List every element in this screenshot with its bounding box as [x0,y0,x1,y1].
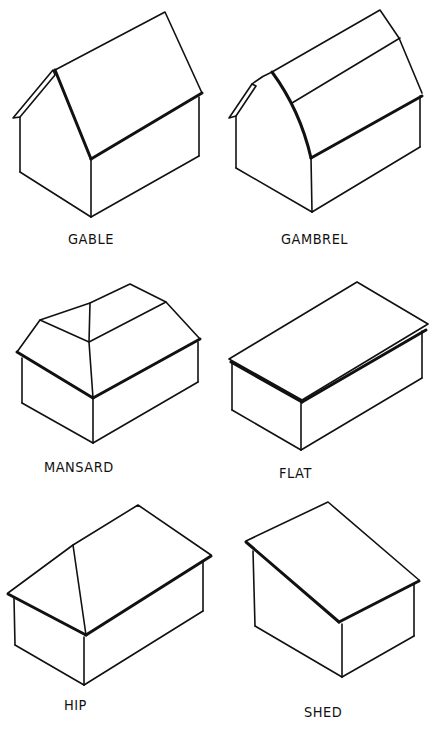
gambrel-roof-drawing [229,10,422,212]
gambrel-label: GAMBREL [281,231,348,248]
mansard-roof-drawing [17,284,200,443]
flat-roof-drawing [229,282,428,450]
mansard-label: MANSARD [44,459,114,476]
flat-label: FLAT [279,465,312,482]
hip-label: HIP [64,697,87,714]
roof-types-diagram [0,0,439,733]
shed-roof-drawing [246,502,419,677]
shed-label: SHED [304,704,342,721]
gable-label: GABLE [68,231,114,248]
hip-roof-drawing [8,505,211,685]
gable-roof-drawing [13,12,202,217]
